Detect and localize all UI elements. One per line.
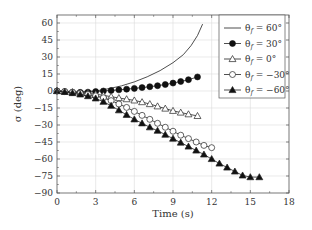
x-tick-label: 0 (54, 197, 60, 207)
data-point (178, 132, 184, 138)
legend-marker (230, 72, 236, 78)
legend-marker (230, 41, 236, 47)
data-point (139, 120, 146, 126)
data-point (147, 116, 153, 122)
data-point (155, 83, 161, 89)
y-tick-label: −90 (34, 188, 53, 198)
data-point (239, 172, 246, 178)
data-point (208, 156, 215, 162)
data-point (185, 143, 192, 149)
data-point (139, 112, 145, 118)
data-point (162, 131, 169, 137)
data-point (185, 136, 191, 142)
data-point (193, 139, 199, 145)
data-point (162, 82, 168, 88)
data-point (124, 86, 130, 92)
y-tick-label: 45 (42, 35, 54, 45)
data-point (162, 124, 168, 130)
data-point (170, 135, 177, 141)
data-point (131, 116, 138, 122)
y-tick-label: −60 (34, 154, 53, 164)
chart: 0369121518604530150−15−30−45−60−75−90 Ti… (0, 0, 312, 230)
legend: θf = 60°θf = 30°θf = 0°θf = −30°θf = −60… (219, 15, 290, 98)
x-tick-label: 9 (170, 197, 176, 207)
data-point (216, 160, 223, 166)
data-point (131, 108, 137, 114)
data-point (139, 85, 145, 91)
data-point (131, 85, 137, 91)
data-point (154, 127, 161, 133)
data-point (178, 78, 184, 84)
data-point (123, 111, 130, 117)
data-point (155, 120, 161, 126)
x-tick-label: 3 (93, 197, 99, 207)
y-tick-label: 15 (42, 69, 54, 79)
y-tick-label: 60 (42, 18, 54, 28)
y-tick-label: −75 (34, 171, 53, 181)
x-tick-label: 15 (245, 197, 257, 207)
y-tick-label: −15 (34, 103, 53, 113)
data-point (124, 104, 130, 110)
y-tick-label: 0 (47, 86, 53, 96)
y-tick-label: 30 (42, 52, 54, 62)
data-point (231, 168, 238, 174)
y-tick-label: −30 (34, 120, 53, 130)
series-4 (54, 88, 263, 180)
data-point (147, 84, 153, 90)
data-point (194, 74, 200, 80)
x-tick-label: 6 (131, 197, 137, 207)
x-tick-label: 12 (206, 197, 217, 207)
data-point (209, 145, 215, 151)
data-point (201, 142, 207, 148)
y-tick-label: −45 (34, 137, 53, 147)
data-point (108, 102, 115, 108)
x-tick-label: 18 (283, 197, 295, 207)
data-point (116, 87, 122, 93)
data-point (200, 151, 207, 157)
x-axis-label: Time (s) (152, 208, 193, 219)
data-point (193, 147, 200, 153)
data-point (170, 128, 176, 134)
data-point (185, 77, 191, 83)
data-point (224, 164, 231, 170)
y-axis-label: σ (deg) (12, 86, 23, 123)
data-point (170, 80, 176, 86)
